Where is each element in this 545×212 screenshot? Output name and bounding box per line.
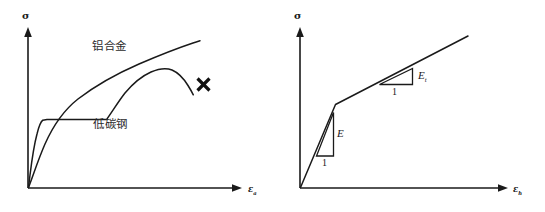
aluminium-alloy-label: 铝合金 — [92, 41, 127, 53]
left-panel-graphic — [0, 0, 272, 212]
x-axis-left — [28, 184, 242, 192]
right-panel-graphic — [272, 0, 545, 212]
y-axis-label-right: σ — [294, 11, 301, 21]
elastic-modulus-label-base: E — [337, 127, 344, 139]
y-axis-label-left: σ — [22, 11, 29, 21]
left-panel: σ εa 铝合金 低碳钢 — [0, 0, 272, 212]
x-axis-label-right-subscript: h — [518, 190, 522, 196]
elastic-modulus-label: E — [337, 128, 344, 142]
x-axis-label-left-subscript: a — [253, 190, 256, 196]
figure-container: σ εa 铝合金 低碳钢 — [0, 0, 545, 212]
elastic-modulus-triangle — [317, 113, 334, 157]
x-axis-right — [300, 184, 508, 192]
y-axis-right — [296, 27, 304, 188]
right-panel: σ εh E 1 Et 1 — [272, 0, 545, 212]
x-axis-label-left: εa — [248, 185, 257, 196]
elastic-modulus-run-label: 1 — [322, 158, 327, 168]
y-axis-left — [24, 27, 32, 188]
tangent-modulus-label-base: E — [418, 69, 425, 81]
tangent-modulus-label: Et — [418, 70, 427, 84]
tangent-modulus-triangle — [380, 69, 413, 85]
tangent-modulus-run-label: 1 — [392, 87, 397, 97]
aluminium-alloy-curve — [29, 41, 201, 188]
low-carbon-steel-label: 低碳钢 — [93, 119, 128, 131]
x-axis-label-right: εh — [513, 185, 522, 196]
fracture-x-marker — [198, 79, 210, 91]
tangent-modulus-label-subscript: t — [425, 76, 427, 83]
